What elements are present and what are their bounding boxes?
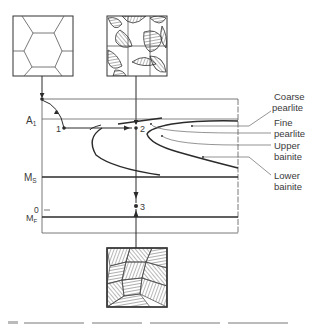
transformation-curves <box>90 118 238 175</box>
legend: Coarsepearlite Finepearlite Upperbainite… <box>272 91 305 192</box>
start-point <box>40 97 44 101</box>
martensite-micrograph <box>107 248 167 307</box>
point-3 <box>134 204 138 208</box>
quench-arrow-icon <box>134 192 139 199</box>
point-1-label: 1 <box>56 124 61 134</box>
lower-bainite-label: Lowerbainite <box>274 170 302 192</box>
point-2-label: 2 <box>140 124 145 134</box>
point-1 <box>62 126 66 130</box>
ms-label: MS <box>24 172 37 184</box>
austenite-grains-micrograph <box>13 16 73 76</box>
upper-bainite-label: Upperbainite <box>274 140 302 162</box>
axis-labels: A1 MS 0 MF <box>24 115 39 224</box>
ttt-diagram: A1 MS 0 MF 1 2 3 <box>0 0 320 324</box>
point-3-label: 3 <box>140 202 145 212</box>
zero-label: 0 <box>34 205 39 215</box>
coarse-pearlite-label: Coarsepearlite <box>272 91 305 113</box>
fine-pearlite-label: Finepearlite <box>274 117 305 139</box>
a1-label: A1 <box>26 115 37 127</box>
hold-arrow-icon <box>124 126 130 131</box>
pearlite-nodules-micrograph <box>107 16 167 76</box>
up-arrow-icon <box>134 210 139 217</box>
point-2 <box>134 126 138 130</box>
